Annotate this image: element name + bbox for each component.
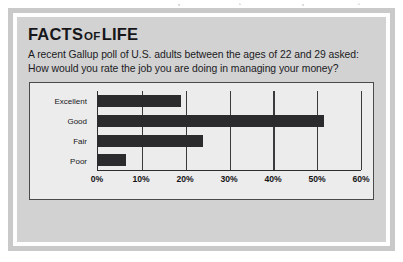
poll-description: A recent Gallup poll of U.S. adults betw… bbox=[28, 48, 375, 75]
box-content-panel: FACTSOFLIFE A recent Gallup poll of U.S.… bbox=[17, 17, 386, 242]
bar-excellent bbox=[98, 95, 181, 107]
cut-off-text-artifact bbox=[150, 0, 393, 8]
title-word-life: LIFE bbox=[102, 25, 139, 43]
page-title: FACTSOFLIFE bbox=[28, 26, 375, 43]
gridline bbox=[361, 91, 362, 170]
bar-series bbox=[98, 91, 361, 170]
bar-chart: ExcellentGoodFairPoor 0%10%20%30%40%50%6… bbox=[29, 82, 374, 200]
category-label: Good bbox=[40, 111, 92, 131]
bar-fair bbox=[98, 135, 203, 147]
x-tick-label: 0% bbox=[91, 174, 103, 184]
category-axis-labels: ExcellentGoodFairPoor bbox=[40, 91, 92, 171]
category-label: Poor bbox=[40, 151, 92, 171]
title-word-of: OF bbox=[83, 30, 102, 42]
x-tick-label: 60% bbox=[352, 174, 369, 184]
plot-area bbox=[97, 91, 361, 171]
bar-row bbox=[98, 111, 361, 131]
x-tick-label: 30% bbox=[220, 174, 237, 184]
chart-plot-wrap: ExcellentGoodFairPoor 0%10%20%30%40%50%6… bbox=[40, 91, 361, 193]
x-tick-label: 10% bbox=[132, 174, 149, 184]
x-tick-label: 20% bbox=[176, 174, 193, 184]
value-axis-labels: 0%10%20%30%40%50%60% bbox=[97, 171, 361, 193]
bar-row bbox=[98, 151, 361, 171]
category-label: Fair bbox=[40, 131, 92, 151]
bar-poor bbox=[98, 154, 126, 166]
facts-of-life-box: FACTSOFLIFE A recent Gallup poll of U.S.… bbox=[8, 8, 395, 251]
bar-row bbox=[98, 91, 361, 111]
bar-row bbox=[98, 131, 361, 151]
x-tick-label: 50% bbox=[308, 174, 325, 184]
title-word-facts: FACTS bbox=[28, 25, 83, 43]
category-label: Excellent bbox=[40, 91, 92, 111]
bar-good bbox=[98, 115, 324, 127]
x-tick-label: 40% bbox=[264, 174, 281, 184]
box-inner-white-border: FACTSOFLIFE A recent Gallup poll of U.S.… bbox=[13, 13, 390, 246]
